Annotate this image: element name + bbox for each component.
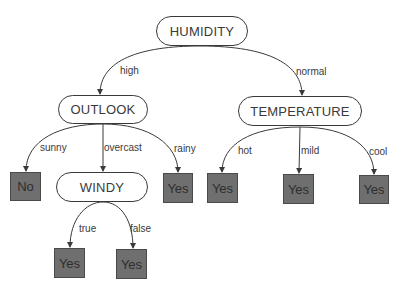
node-temperature: TEMPERATURE xyxy=(238,96,362,126)
edge-label-true: true xyxy=(79,223,96,234)
node-windy: WINDY xyxy=(56,172,148,202)
leaf-temperature-cool: Yes xyxy=(359,175,389,204)
edge-label-high: high xyxy=(120,65,139,76)
edge-label-normal: normal xyxy=(296,66,327,77)
edge-windy-false xyxy=(103,202,133,248)
edge-temperature-hot xyxy=(222,127,300,172)
node-humidity: HUMIDITY xyxy=(156,16,248,46)
edge-label-overcast: overcast xyxy=(104,142,142,153)
leaf-outlook-rainy: Yes xyxy=(163,173,193,203)
leaf-outlook-sunny: No xyxy=(10,172,41,201)
edge-temperature-mild xyxy=(299,127,300,173)
leaf-windy-false: Yes xyxy=(116,249,147,279)
edge-humidity-high xyxy=(100,46,200,94)
edge-label-rainy: rainy xyxy=(174,143,196,154)
leaf-temperature-mild: Yes xyxy=(283,174,314,204)
node-outlook: OUTLOOK xyxy=(58,95,148,124)
edge-label-cool: cool xyxy=(369,146,387,157)
edge-label-false: false xyxy=(130,223,151,234)
edge-label-sunny: sunny xyxy=(40,142,67,153)
edge-humidity-normal xyxy=(200,46,302,95)
edge-label-mild: mild xyxy=(301,145,319,156)
leaf-temperature-hot: Yes xyxy=(207,173,238,203)
leaf-windy-true: Yes xyxy=(54,248,85,278)
edge-label-hot: hot xyxy=(238,145,252,156)
